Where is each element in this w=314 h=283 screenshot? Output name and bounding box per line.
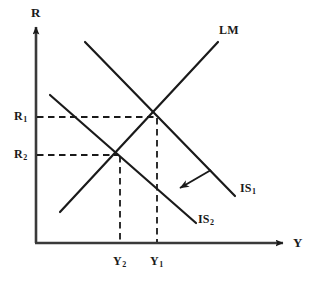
is2-curve-label: IS2 (198, 213, 214, 225)
is-shift-arrow (180, 170, 211, 188)
x-axis-label: Y (293, 236, 303, 249)
lm-curve-label: LM (219, 24, 239, 36)
y1-tick-base: Y (150, 254, 159, 268)
is1-curve-label: IS1 (240, 182, 256, 194)
y1-tick-label: Y1 (150, 255, 163, 267)
is1-curve-label-sub: 1 (252, 187, 256, 196)
diagram-canvas (0, 0, 314, 283)
lm-curve (60, 42, 218, 212)
is2-curve-label-sub: 2 (210, 218, 214, 227)
is-lm-diagram: R Y R1 R2 Y2 Y1 LM IS1 IS2 (0, 0, 314, 283)
r1-tick-base: R (14, 109, 23, 123)
curves-group (50, 42, 235, 223)
y2-tick-base: Y (113, 254, 122, 268)
r1-tick-sub: 1 (23, 115, 27, 124)
y1-tick-sub: 1 (159, 260, 163, 269)
r1-tick-label: R1 (14, 110, 27, 122)
is2-curve (50, 95, 196, 223)
y2-tick-label: Y2 (113, 255, 126, 267)
r2-tick-sub: 2 (23, 153, 27, 162)
y-axis-label: R (31, 6, 41, 19)
r2-tick-base: R (14, 147, 23, 161)
axes-group (35, 27, 283, 243)
is2-curve-label-base: IS (198, 212, 210, 226)
r2-tick-label: R2 (14, 148, 27, 160)
y2-tick-sub: 2 (122, 260, 126, 269)
is1-curve-label-base: IS (240, 181, 252, 195)
is1-curve (85, 42, 235, 196)
